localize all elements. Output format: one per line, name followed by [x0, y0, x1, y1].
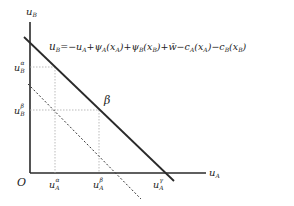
frontier-dashed-line	[28, 84, 141, 199]
x-tick-ua-beta: uAβ	[93, 176, 104, 191]
y-axis-label: uB	[26, 6, 37, 18]
x-tick-ua-alpha: uAα	[49, 176, 60, 191]
diagram-canvas: uB uA O uB=−uA+ψA(xA)+ψB(xB)+w̄−cA(xA)−c…	[0, 0, 294, 206]
x-axis-label: uA	[209, 167, 220, 179]
y-tick-ub-beta: uBβ	[14, 102, 25, 117]
origin-label: O	[17, 176, 26, 189]
frontier-equation: uB=−uA+ψA(xA)+ψB(xB)+w̄−cA(xA)−cB(xB)	[49, 40, 247, 53]
y-tick-ub-alpha: uBα	[14, 59, 25, 74]
curve-label-beta: β	[103, 94, 110, 107]
x-tick-ua-gamma: uAγ	[153, 176, 164, 191]
utility-frontier-diagram: uB uA O uB=−uA+ψA(xA)+ψB(xB)+w̄−cA(xA)−c…	[0, 0, 294, 206]
